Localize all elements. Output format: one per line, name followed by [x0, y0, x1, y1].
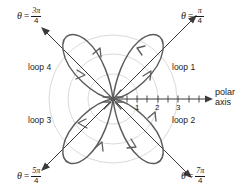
fraction-denominator-pi-4: 4 — [196, 17, 202, 25]
theta-symbol-3pi-4: θ — [17, 11, 22, 22]
fraction-numerator-7pi-4: 7π — [195, 167, 205, 175]
theta-symbol-7pi-4: θ — [181, 171, 186, 182]
fraction-denominator-5pi-4: 4 — [33, 177, 39, 185]
polar-axis-group — [113, 96, 213, 103]
direction-arrow-loop-3-out — [78, 119, 87, 128]
axis-tick-label-1: 1 — [135, 103, 139, 112]
direction-arrow-pole-upper-left — [103, 90, 111, 97]
theta-label-pi-4: θ = π 4 — [181, 7, 204, 25]
axis-tick-label-2: 2 — [155, 103, 159, 112]
loop-label-3: loop 3 — [28, 116, 51, 125]
petal-loop-3 — [63, 99, 113, 163]
loop-label-2: loop 2 — [172, 116, 195, 125]
figure-canvas — [0, 0, 246, 194]
equals-symbol-7pi-4: = — [188, 171, 193, 180]
petal-loop-1 — [113, 35, 163, 99]
theta-label-5pi-4: θ = 5π 4 — [17, 167, 41, 185]
polar-axis-label-line2: axis — [215, 97, 235, 107]
equals-symbol-pi-4: = — [188, 11, 193, 20]
polar-axis-label: polar axis — [215, 87, 235, 108]
loop-label-4: loop 4 — [28, 63, 51, 72]
fraction-numerator-5pi-4: 5π — [31, 167, 41, 175]
fraction-numerator-3pi-4: 3π — [31, 7, 41, 15]
fraction-7pi-4: 7π 4 — [195, 167, 205, 185]
fraction-denominator-7pi-4: 4 — [197, 177, 203, 185]
theta-symbol-pi-4: θ — [181, 11, 186, 22]
loop-label-1: loop 1 — [172, 63, 195, 72]
petal-loop-4 — [63, 35, 113, 99]
equals-symbol-5pi-4: = — [24, 171, 29, 180]
direction-arrow-loop-1-in — [137, 46, 145, 55]
theta-label-3pi-4: θ = 3π 4 — [17, 7, 41, 25]
fraction-numerator-pi-4: π — [197, 7, 203, 15]
polar-axis-arrowhead — [205, 96, 213, 103]
polar-rose-figure: θ = 3π 4 θ = π 4 θ = 5π 4 θ = 7π — [0, 0, 246, 194]
fraction-3pi-4: 3π 4 — [31, 7, 41, 25]
fraction-5pi-4: 5π 4 — [31, 167, 41, 185]
axis-tick-label-3: 3 — [176, 103, 180, 112]
polar-axis-label-line1: polar — [215, 87, 235, 97]
theta-symbol-5pi-4: θ — [17, 171, 22, 182]
theta-label-7pi-4: θ = 7π 4 — [181, 167, 205, 185]
equals-symbol-3pi-4: = — [24, 11, 29, 20]
fraction-pi-4: π 4 — [195, 7, 204, 25]
fraction-denominator-3pi-4: 4 — [33, 17, 39, 25]
direction-arrow-pole-lower-left — [103, 102, 111, 109]
